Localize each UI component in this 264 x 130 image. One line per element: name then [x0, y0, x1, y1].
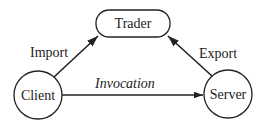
import-label: Import	[30, 45, 68, 60]
trader-label: Trader	[115, 16, 152, 31]
server-label: Server	[210, 87, 247, 102]
server-node: Server	[204, 70, 252, 118]
export-label: Export	[199, 46, 237, 61]
client-node: Client	[14, 71, 62, 119]
invocation-label: Invocation	[94, 76, 155, 91]
client-label: Client	[21, 88, 55, 103]
trader-node: Trader	[96, 10, 170, 37]
trader-diagram: Trader Client Server Import Export Invoc…	[0, 0, 264, 130]
invocation-edge: Invocation	[62, 76, 203, 95]
